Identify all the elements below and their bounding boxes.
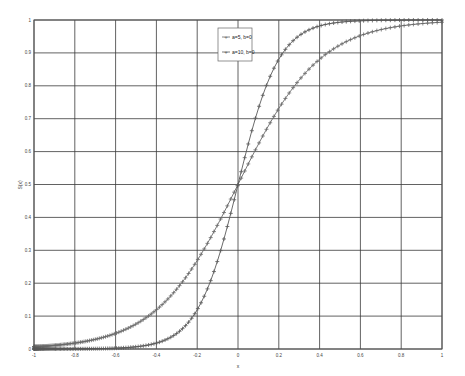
plus-marker-icon [257, 104, 261, 108]
plus-marker-icon [362, 32, 366, 36]
y-axis-ticks: 00.10.20.30.40.50.60.70.80.91 [25, 18, 32, 352]
plus-marker-icon [104, 335, 108, 339]
plus-marker-icon [222, 237, 226, 241]
plus-marker-icon [336, 20, 340, 24]
x-tick-label: 0.2 [276, 353, 283, 358]
plus-marker-icon [209, 236, 213, 240]
plus-marker-icon [106, 334, 110, 338]
plus-marker-icon [362, 19, 366, 23]
x-tick-label: -0.4 [153, 353, 161, 358]
legend-box [218, 28, 252, 61]
plus-marker-icon [212, 230, 216, 234]
plus-marker-icon [379, 28, 383, 32]
plus-marker-icon [219, 249, 223, 253]
legend-marker-a10: + [224, 49, 228, 55]
plus-marker-icon [205, 241, 209, 245]
plus-marker-icon [243, 169, 247, 173]
y-tick-label: 0.6 [25, 149, 32, 154]
x-axis-label: x [237, 363, 240, 369]
plus-marker-icon [232, 198, 236, 202]
y-tick-label: 0.2 [25, 281, 32, 286]
plus-marker-icon [141, 344, 145, 348]
x-tick-label: 1 [441, 353, 444, 358]
plus-marker-icon [225, 204, 229, 208]
x-tick-label: -0.2 [193, 353, 201, 358]
plus-marker-icon [222, 211, 226, 215]
plus-marker-icon [119, 329, 123, 333]
plus-marker-icon [196, 307, 200, 311]
y-tick-label: 0.4 [25, 215, 32, 220]
plus-marker-icon [117, 330, 121, 334]
plus-marker-icon [250, 129, 254, 133]
plus-marker-icon [388, 26, 392, 30]
plus-marker-icon [303, 30, 307, 34]
plus-marker-icon [272, 66, 276, 70]
plus-marker-icon [327, 22, 331, 26]
plus-marker-icon [393, 25, 397, 29]
plus-marker-icon [246, 162, 250, 166]
x-tick-label: 0.8 [398, 353, 405, 358]
x-tick-label: 0 [237, 353, 240, 358]
plus-marker-icon [349, 38, 353, 42]
plus-marker-icon [421, 22, 425, 26]
plus-marker-icon [261, 134, 265, 138]
plus-marker-icon [99, 336, 103, 340]
x-axis-ticks: -1-0.8-0.6-0.4-0.200.20.40.60.81 [32, 353, 444, 358]
plus-marker-icon [370, 30, 374, 34]
plus-marker-icon [375, 29, 379, 33]
plus-marker-icon [264, 127, 268, 131]
plus-marker-icon [307, 28, 311, 32]
plus-marker-icon [91, 338, 95, 342]
plus-marker-icon [336, 44, 340, 48]
plus-marker-icon [344, 40, 348, 44]
x-tick-label: 0.4 [316, 353, 323, 358]
plus-marker-icon [147, 343, 151, 347]
plus-marker-icon [315, 25, 319, 29]
plus-marker-icon [332, 21, 336, 25]
plus-marker-icon [93, 337, 97, 341]
plus-marker-icon [264, 83, 268, 87]
plus-marker-icon [110, 333, 114, 337]
plus-marker-icon [311, 26, 315, 30]
plus-marker-icon [268, 74, 272, 78]
plus-marker-icon [239, 170, 243, 174]
plus-marker-icon [340, 20, 344, 24]
plus-marker-icon [402, 24, 406, 28]
plus-marker-icon [323, 22, 327, 26]
plus-marker-icon [95, 337, 99, 341]
plus-marker-icon [115, 331, 119, 335]
plus-marker-icon [149, 342, 153, 346]
plus-marker-icon [411, 22, 415, 26]
plus-marker-icon [253, 116, 257, 120]
y-tick-label: 0.7 [25, 116, 32, 121]
plus-marker-icon [199, 301, 203, 305]
x-tick-label: -0.8 [71, 353, 79, 358]
plus-marker-icon [101, 335, 105, 339]
sigmoid-chart: -1-0.8-0.6-0.4-0.200.20.40.60.81 00.10.2… [0, 0, 465, 376]
y-tick-label: 0 [28, 347, 31, 352]
legend-label-a5: a=5, b=0 [232, 34, 252, 40]
plus-marker-icon [268, 121, 272, 125]
plus-marker-icon [225, 225, 229, 229]
plus-marker-icon [215, 260, 219, 264]
x-tick-label: -1 [32, 353, 36, 358]
plus-marker-icon [243, 156, 247, 160]
x-tick-label: -0.6 [112, 353, 120, 358]
y-axis-label: S(x) [17, 180, 23, 190]
plus-marker-icon [366, 31, 370, 35]
plus-marker-icon [144, 343, 148, 347]
y-tick-label: 0.1 [25, 314, 32, 319]
y-tick-label: 1 [28, 18, 31, 23]
plus-marker-icon [108, 333, 112, 337]
plus-marker-icon [155, 341, 159, 345]
plus-marker-icon [209, 279, 213, 283]
plus-marker-icon [157, 340, 161, 344]
plus-marker-icon [340, 42, 344, 46]
plus-marker-icon [205, 287, 209, 291]
legend: + a=5, b=0 + a=10, b=0 [218, 28, 255, 61]
plus-marker-icon [366, 19, 370, 23]
plus-marker-icon [407, 23, 411, 27]
plus-marker-icon [152, 342, 156, 346]
plus-marker-icon [250, 155, 254, 159]
plus-marker-icon [416, 22, 420, 26]
